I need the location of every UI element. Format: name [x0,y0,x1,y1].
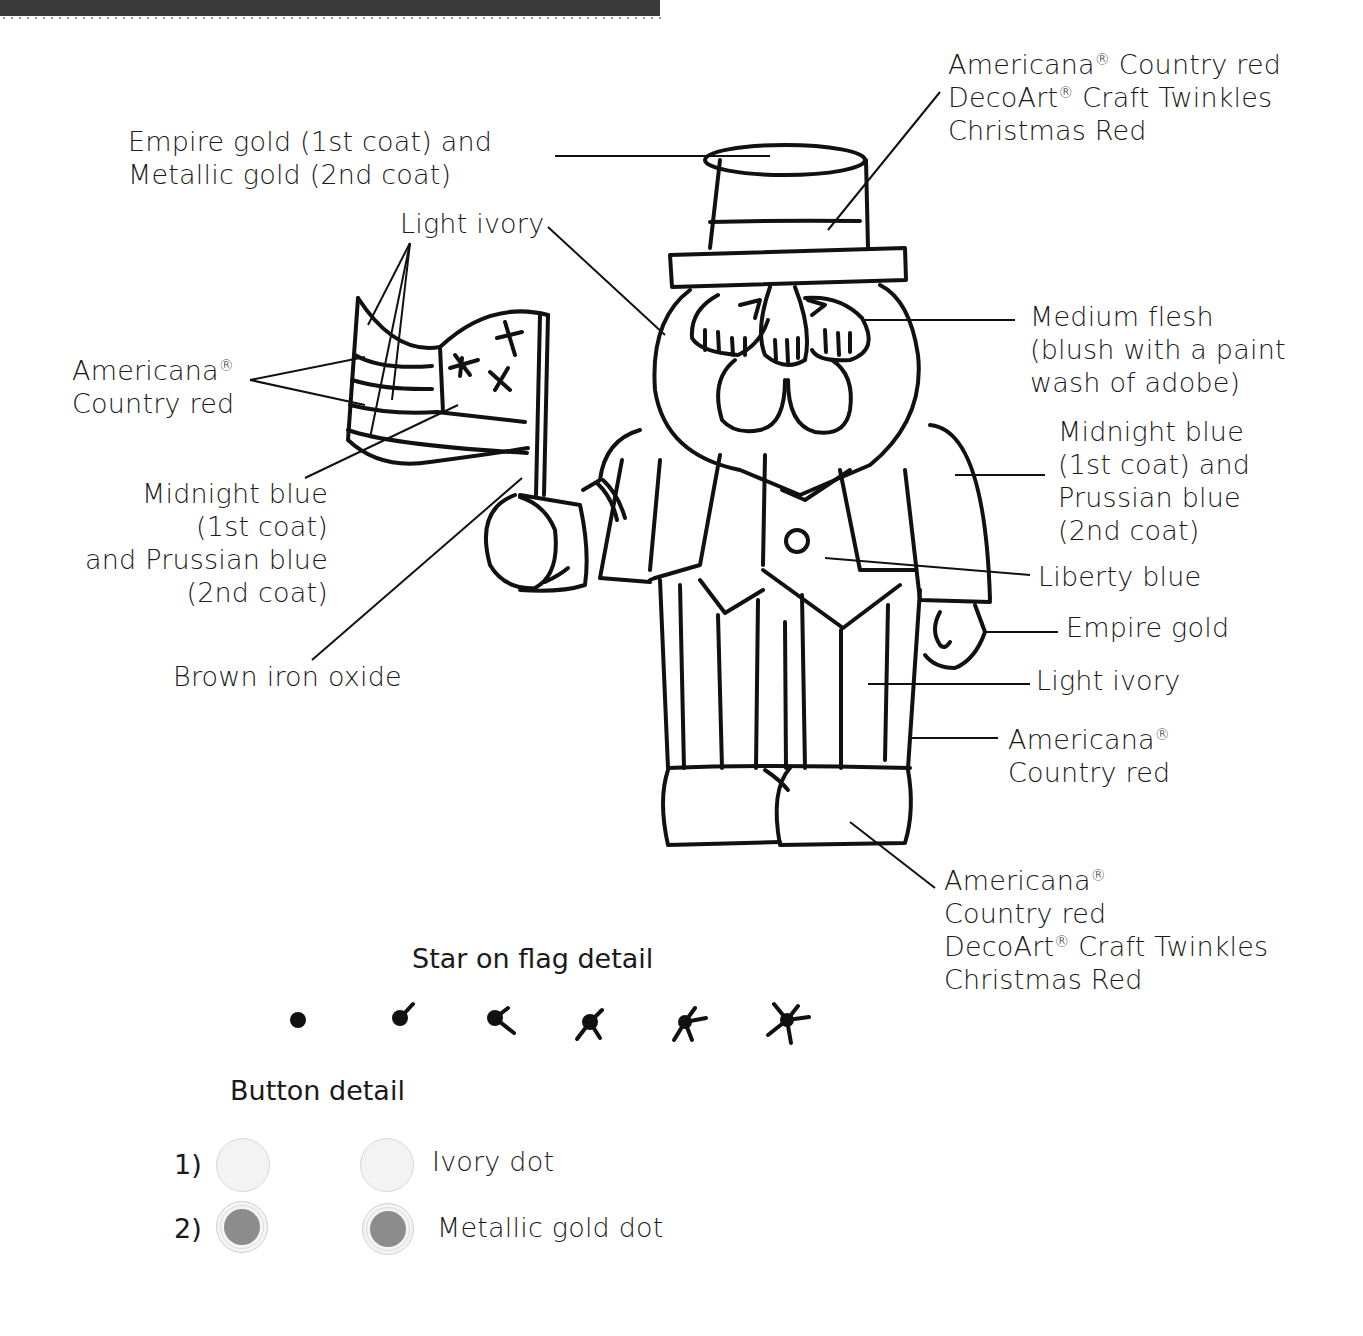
gold-dot-example [362,1203,414,1255]
label-face: Medium flesh (blush with a paint wash of… [1030,300,1286,399]
pants [660,580,920,768]
label-light-ivory-flag: Light ivory [400,207,544,240]
star-step-1 [292,1014,304,1026]
gold-dot-step-2 [216,1201,268,1253]
star-detail-title: Star on flag detail [412,942,653,975]
star-step-3 [489,1008,514,1033]
label-hand: Empire gold [1066,611,1229,644]
star-step-5 [674,1008,706,1040]
button-step-number-1: 1) [174,1148,202,1181]
shoes [663,768,911,845]
label-pants-stripes: Americana® Country red [1008,723,1170,789]
leader-lines [250,92,1058,888]
button-step-label-1: Ivory dot [432,1145,554,1178]
label-flag-canton: Midnight blue (1st coat) and Prussian bl… [60,477,328,609]
star-step-6 [768,1004,809,1043]
hat [670,145,906,287]
arm-hand [486,495,587,591]
label-flagpole: Brown iron oxide [173,660,402,693]
label-hat-band: Americana® Country red DecoArt® Craft Tw… [948,48,1281,147]
star-step-2 [394,1004,413,1024]
button-detail-title: Button detail [230,1074,405,1107]
ivory-dot-step-1 [216,1138,270,1192]
star-step-4 [577,1010,602,1039]
label-vest: Liberty blue [1038,560,1201,593]
head [654,285,918,495]
label-coat: Midnight blue (1st coat) and Prussian bl… [1058,415,1250,547]
label-shoes: Americana® Country red DecoArt® Craft Tw… [944,864,1268,996]
ivory-dot-example [360,1138,414,1192]
label-pants: Light ivory [1036,664,1180,697]
right-hand [925,605,985,668]
label-flag-stripes: Americana® Country red [72,354,234,420]
label-hat-top: Empire gold (1st coat) and Metallic gold… [128,125,492,191]
button-step-label-2: Metallic gold dot [437,1211,664,1244]
star-detail-steps [292,1004,809,1043]
button-step-number-2: 2) [174,1212,202,1245]
coat [583,425,990,628]
